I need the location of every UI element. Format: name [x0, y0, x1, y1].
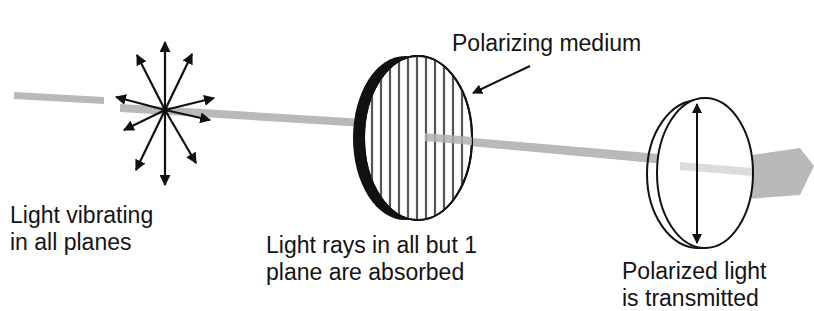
label-absorbed: Light rays in all but 1 plane are absorb… — [266, 232, 477, 286]
label-transmitted: Polarized light is transmitted — [622, 258, 766, 311]
label-line: in all planes — [10, 229, 153, 256]
label-line: Light rays in all but 1 — [266, 232, 477, 259]
label-line: Polarized light — [622, 258, 766, 285]
polarizing-filter — [353, 50, 472, 225]
label-polarizing-medium: Polarizing medium — [452, 30, 641, 57]
label-line: is transmitted — [622, 285, 766, 311]
label-line: plane are absorbed — [266, 259, 477, 286]
polarization-diagram: Light vibrating in all planes Polarizing… — [0, 0, 814, 311]
label-line: Light vibrating — [10, 202, 153, 229]
polarized-light-disc — [647, 98, 753, 248]
pointer-arrow — [473, 66, 530, 93]
label-unpolarized: Light vibrating in all planes — [10, 202, 153, 256]
